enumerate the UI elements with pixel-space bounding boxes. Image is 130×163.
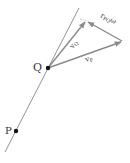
dashed-guide [80,19,87,21]
vector-rpq-omega [88,22,122,41]
velocity-diagram: Q P vQ vP rPQω [0,0,130,163]
point-q-label: Q [33,61,42,74]
rpq-omega-label: rPQω [99,12,118,27]
vp-label: vP [83,54,94,65]
point-p [14,129,18,133]
point-q [46,66,50,70]
point-p-label: P [5,125,12,136]
